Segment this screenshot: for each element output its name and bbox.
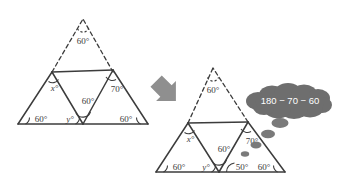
arc-base-right [274, 166, 278, 173]
thought-bubble: 180 − 70 − 60 [241, 83, 332, 157]
right-label-apex: 60° [207, 85, 220, 95]
right-label-y: y° [201, 162, 210, 172]
left-label-y: y° [65, 114, 74, 124]
arc-base-right [137, 118, 141, 125]
right-label-base-left: 60° [173, 162, 186, 172]
trail-dot-4 [241, 151, 249, 156]
trail-dot-1 [272, 118, 289, 128]
right-label-x: x° [186, 134, 195, 144]
figure-canvas: 60° x° 70° 60° 60° y° 60° [0, 0, 337, 183]
left-label-70: 70° [111, 84, 124, 94]
left-label-base-left: 60° [35, 114, 48, 124]
right-label-50: 50° [236, 162, 249, 172]
right-label-base-right: 60° [258, 162, 271, 172]
arc-base-left [164, 166, 168, 173]
trail-dot-3 [251, 142, 262, 149]
geometry-figure: 60° x° 70° 60° 60° y° 60° [0, 0, 337, 183]
arc-base-50 [226, 163, 234, 172]
left-label-inner-60: 60° [82, 96, 95, 106]
right-label-inner-60: 60° [218, 144, 231, 154]
arc-apex [78, 29, 89, 33]
left-label-base-right: 60° [120, 114, 133, 124]
left-label-apex: 60° [77, 36, 90, 46]
arc-base-y [76, 118, 80, 125]
left-label-x: x° [50, 83, 59, 93]
trail-dot-2 [261, 130, 275, 138]
transition-arrow [146, 71, 186, 111]
arc-base-left [26, 118, 30, 125]
thought-bubble-text: 180 − 70 − 60 [261, 95, 320, 106]
arc-base-y [212, 166, 216, 173]
left-diagram: 60° x° 70° 60° 60° y° 60° [18, 19, 148, 124]
right-dashed-apex-lines [188, 68, 248, 123]
